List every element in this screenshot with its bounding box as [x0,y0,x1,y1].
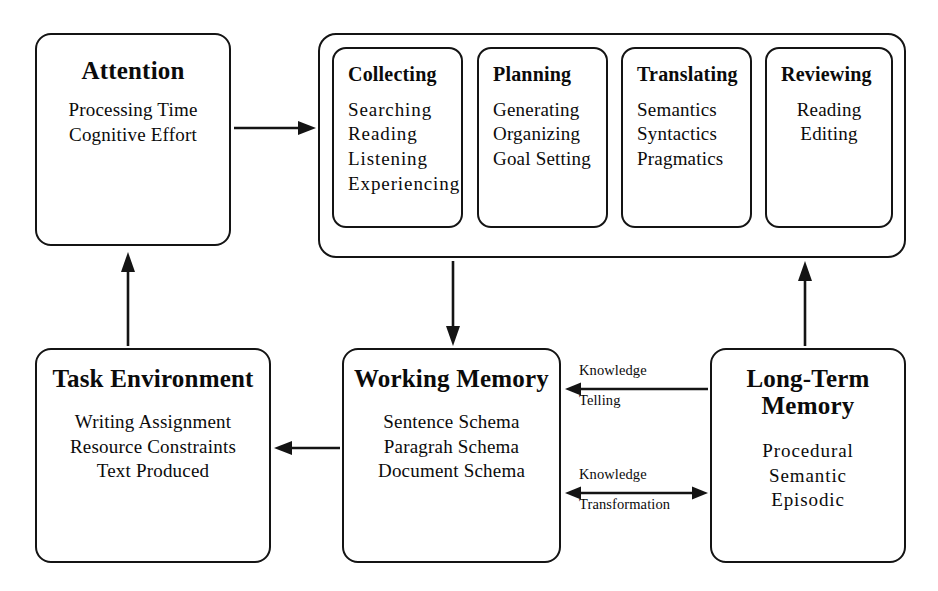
task-environment-items: Writing Assignment Resource Constraints … [45,410,261,484]
translating-item: Pragmatics [637,147,736,172]
collecting-item: Reading [348,122,447,147]
knowledge-transformation-label-bottom: Transformation [579,497,670,513]
arrow-down-icon [443,261,463,346]
arrow-working-memory-to-task-env [274,438,340,458]
attention-item: Cognitive Effort [45,123,221,148]
reviewing-items: Reading Editing [781,98,877,147]
reviewing-item: Editing [781,122,877,147]
translating-title: Translating [637,64,736,86]
arrow-up-icon [795,261,815,346]
task-environment-title: Task Environment [45,365,261,392]
reviewing-box[interactable]: Reviewing Reading Editing [765,47,893,228]
attention-box[interactable]: Attention Processing Time Cognitive Effo… [35,33,231,246]
long-term-memory-items: Procedural Semantic Episodic [720,439,896,513]
reviewing-title: Reviewing [781,64,877,86]
attention-item: Processing Time [45,98,221,123]
collecting-item: Listening [348,147,447,172]
long-term-memory-item: Procedural [720,439,896,464]
arrow-long-term-to-reviewing [795,261,815,346]
arrow-right-icon [234,118,318,138]
long-term-memory-box[interactable]: Long-Term Memory Procedural Semantic Epi… [710,348,906,563]
planning-items: Generating Organizing Goal Setting [493,98,592,172]
working-memory-item: Document Schema [352,459,551,484]
translating-items: Semantics Syntactics Pragmatics [637,98,736,172]
knowledge-transformation-label-top: Knowledge [579,467,647,483]
task-environment-item: Writing Assignment [45,410,261,435]
long-term-memory-title-line1: Long-Term [746,365,869,392]
task-environment-title-line1: Task [52,365,103,392]
collecting-item: Experiencing [348,172,447,197]
task-environment-item: Text Produced [45,459,261,484]
arrow-left-icon [274,438,340,458]
collecting-box[interactable]: Collecting Searching Reading Listening E… [332,47,463,228]
long-term-memory-item: Episodic [720,488,896,513]
arrow-attention-to-process [234,118,318,138]
working-memory-item: Sentence Schema [352,410,551,435]
working-memory-title-line1: Working [354,365,450,392]
long-term-memory-item: Semantic [720,464,896,489]
task-environment-box[interactable]: Task Environment Writing Assignment Reso… [35,348,271,563]
working-memory-items: Sentence Schema Paragrah Schema Document… [352,410,551,484]
working-memory-box[interactable]: Working Memory Sentence Schema Paragrah … [342,348,561,563]
collecting-title: Collecting [348,64,447,86]
working-memory-title: Working Memory [352,365,551,392]
working-memory-title-line2: Memory [456,365,549,392]
planning-item: Generating [493,98,592,123]
arrow-task-env-to-attention [118,252,138,346]
working-memory-item: Paragrah Schema [352,435,551,460]
diagram-canvas: Attention Processing Time Cognitive Effo… [0,0,938,591]
translating-box[interactable]: Translating Semantics Syntactics Pragmat… [621,47,752,228]
knowledge-telling-label-bottom: Telling [579,393,621,409]
reviewing-item: Reading [781,98,877,123]
knowledge-telling-label-top: Knowledge [579,363,647,379]
attention-title: Attention [45,57,221,84]
planning-item: Organizing [493,122,592,147]
translating-item: Semantics [637,98,736,123]
long-term-memory-title: Long-Term Memory [720,365,896,419]
arrow-up-icon [118,252,138,346]
task-environment-title-line2: Environment [110,365,253,392]
arrow-process-to-working-memory [443,261,463,346]
collecting-items: Searching Reading Listening Experiencing [348,98,447,197]
task-environment-item: Resource Constraints [45,435,261,460]
planning-box[interactable]: Planning Generating Organizing Goal Sett… [477,47,608,228]
attention-items: Processing Time Cognitive Effort [45,98,221,147]
planning-item: Goal Setting [493,147,592,172]
long-term-memory-title-line2: Memory [762,392,855,419]
collecting-item: Searching [348,98,447,123]
planning-title: Planning [493,64,592,86]
translating-item: Syntactics [637,122,736,147]
